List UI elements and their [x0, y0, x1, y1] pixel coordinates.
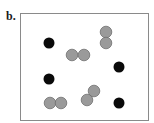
gray-particle — [55, 97, 67, 109]
black-particle — [44, 38, 55, 49]
gray-particle — [44, 97, 56, 109]
black-particle — [114, 62, 125, 73]
particle-diagram — [0, 0, 154, 123]
gray-particle — [66, 49, 78, 61]
gray-particle — [100, 37, 112, 49]
gray-particle — [81, 94, 93, 106]
black-particle — [44, 74, 55, 85]
gray-particle — [100, 26, 112, 38]
black-particle — [114, 98, 125, 109]
gray-particle — [78, 49, 90, 61]
